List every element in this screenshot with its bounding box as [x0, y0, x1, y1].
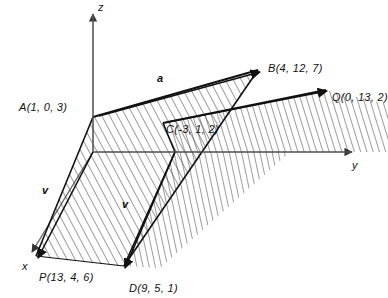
figure-root: z y x A(1, 0, 3) B(4, 12, 7) C(-3, 1, 2)… — [0, 0, 388, 298]
point-label-A: A(1, 0, 3) — [19, 102, 67, 113]
point-label-B: B(4, 12, 7) — [268, 63, 323, 74]
vector-label-a: a — [157, 73, 163, 84]
axis-label-z: z — [98, 2, 104, 13]
point-label-P: P(13, 4, 6) — [39, 272, 94, 283]
point-label-Q: Q(0, 13, 2) — [332, 92, 388, 103]
axis-label-x: x — [22, 261, 28, 272]
point-label-D: D(9, 5, 1) — [129, 283, 178, 294]
vector-label-v2: v — [122, 199, 128, 210]
vector-label-v1: v — [42, 185, 48, 196]
point-label-C: C(-3, 1, 2) — [166, 124, 219, 135]
figure-canvas — [0, 0, 388, 298]
axis-label-y: y — [352, 160, 358, 171]
